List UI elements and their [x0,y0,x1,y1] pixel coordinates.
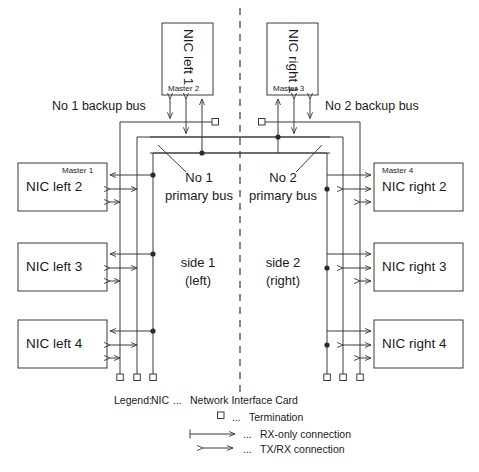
node-label-nic-left-4: NIC left 4 [26,336,82,351]
master-label-nic-right-1: Master 3 [273,84,304,93]
termination-bottom-right-3 [324,374,331,381]
legend-symbols [190,412,235,448]
legend-dots-0: ... [173,394,182,406]
legend-dots-1: ... [232,411,241,423]
bus-label-no2-primary-line2: primary bus [243,188,323,203]
leader-no2-primary [296,145,322,172]
legend-dots-3: ... [243,443,252,455]
termination-bottom-right-2 [340,374,347,381]
legend-prefix: Legend: [114,394,152,406]
junction-dot [150,328,155,333]
junction-dot [275,134,280,139]
bus-label-no1-backup: No 1 backup bus [52,99,146,113]
side-label-1-line2: (left) [163,273,233,288]
termination-bottom-left-3 [150,374,157,381]
node-label-nic-left-3: NIC left 3 [26,259,82,274]
node-label-nic-right-3: NIC right 3 [382,259,447,274]
legend-key-nic: NIC [151,394,169,406]
legend-text-rx-only: RX-only connection [260,428,351,440]
termination-bottom-left-1 [117,374,124,381]
termination-bottom-right-1 [357,374,364,381]
bus-label-no1-primary-line2: primary bus [159,188,239,203]
bus-label-no2-primary-line1: No 2 [248,170,318,185]
leader-no1-primary [158,145,186,172]
node-label-nic-left-2: NIC left 2 [26,179,82,194]
side-label-1-line1: side 1 [163,255,233,270]
junction-dot [324,265,329,270]
legend-termination-icon [218,412,225,419]
legend-dots-2: ... [243,428,252,440]
termination-top-left [212,119,219,126]
termination-bottom-left-2 [134,374,141,381]
legend-text-nic: Network Interface Card [190,394,298,406]
legend-text-txrx: TX/RX connection [260,443,345,455]
junction-dot [324,186,329,191]
master-label-nic-left-1: Master 2 [168,84,199,93]
node-label-nic-right-4: NIC right 4 [382,336,447,351]
side-label-2-line1: side 2 [248,255,318,270]
master-label-nic-right-2: Master 4 [382,166,413,175]
termination-top-right [259,119,266,126]
master-label-nic-left-2: Master 1 [62,166,93,175]
side-label-2-line2: (right) [248,273,318,288]
node-label-nic-right-2: NIC right 2 [382,179,447,194]
bus-label-no2-backup: No 2 backup bus [325,99,419,113]
junction-dot [199,150,204,155]
junction-dot [150,251,155,256]
legend-text-termination: Termination [249,411,303,423]
bus-label-no1-primary-line1: No 1 [164,170,234,185]
junction-dot [324,342,329,347]
junction-dot [150,172,155,177]
node-label-nic-left-1: NIC left 1 [181,29,196,85]
